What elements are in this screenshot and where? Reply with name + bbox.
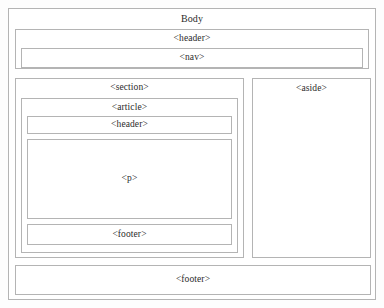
paragraph-container: <p> [27,139,232,219]
header-label: <header> [16,34,368,44]
article-footer-container: <footer> [27,224,232,245]
article-header-label: <header> [111,120,148,130]
aside-container: <aside> [252,78,371,258]
semantic-layout-diagram: Body <header> <nav> <section> <article> … [0,0,384,308]
main-content-row: <section> <article> <header> <p> <footer… [15,78,371,258]
header-container: <header> <nav> [15,29,369,69]
footer-container: <footer> [15,265,371,295]
nav-label: <nav> [180,53,205,63]
body-container: Body <header> <nav> <section> <article> … [8,8,376,300]
paragraph-label: <p> [122,174,138,184]
nav-container: <nav> [21,48,363,68]
article-footer-label: <footer> [112,230,146,240]
column-gap [244,78,252,258]
article-label: <article> [22,103,237,113]
section-container: <section> <article> <header> <p> <footer… [15,78,244,258]
footer-label: <footer> [176,275,210,285]
body-label: Body [9,9,375,28]
article-container: <article> <header> <p> <footer> [21,98,238,253]
section-label: <section> [16,83,243,93]
aside-label: <aside> [253,84,370,94]
article-header-container: <header> [27,116,232,134]
